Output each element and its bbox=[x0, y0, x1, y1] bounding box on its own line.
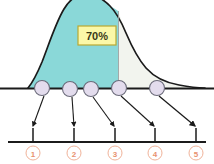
tick-number-3[interactable]: 3 bbox=[108, 146, 122, 160]
lower-axis-tick-group bbox=[33, 128, 196, 142]
distribution-diagram: 70% bbox=[0, 0, 214, 164]
tick-number-1-label: 1 bbox=[31, 150, 36, 159]
tail-region-fill bbox=[118, 11, 205, 88]
mapping-arrow-3 bbox=[93, 97, 114, 126]
mapping-arrow-5 bbox=[159, 96, 195, 126]
tick-number-4-label: 4 bbox=[153, 150, 158, 159]
tick-number-2[interactable]: 2 bbox=[67, 146, 81, 160]
mapping-arrow-group bbox=[33, 96, 195, 126]
axis-node-1[interactable] bbox=[35, 81, 50, 96]
axis-node-4[interactable] bbox=[112, 81, 127, 96]
tick-number-4[interactable]: 4 bbox=[148, 146, 162, 160]
tick-number-5-label: 5 bbox=[194, 150, 199, 159]
mapping-arrow-2 bbox=[72, 97, 74, 126]
tick-number-3-label: 3 bbox=[113, 150, 118, 159]
tick-number-2-label: 2 bbox=[72, 150, 77, 159]
tick-number-5[interactable]: 5 bbox=[189, 146, 203, 160]
tick-number-group: 1 2 3 4 5 bbox=[26, 146, 203, 160]
mapping-arrow-4 bbox=[121, 96, 154, 126]
axis-node-2[interactable] bbox=[63, 82, 78, 97]
percent-label: 70% bbox=[78, 26, 116, 45]
mapping-arrow-1 bbox=[33, 96, 44, 126]
axis-node-5[interactable] bbox=[150, 81, 165, 96]
figure-canvas: 70% bbox=[0, 0, 214, 164]
percent-label-text: 70% bbox=[86, 30, 108, 42]
tick-number-1[interactable]: 1 bbox=[26, 146, 40, 160]
axis-node-3[interactable] bbox=[84, 82, 99, 97]
